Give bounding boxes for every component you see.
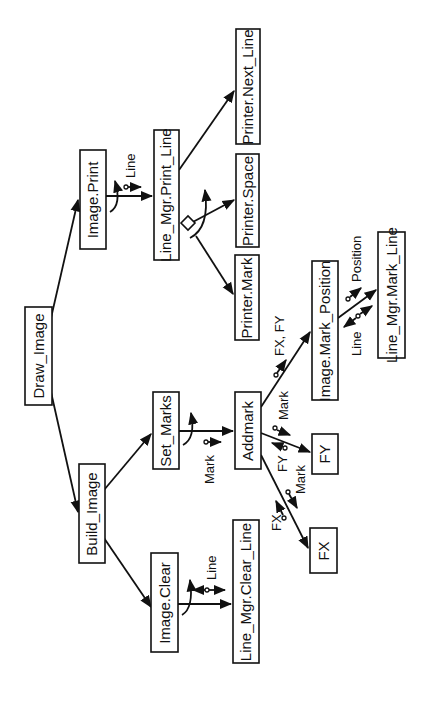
couple-arrow: [289, 494, 297, 508]
data-couple-icon: [286, 490, 290, 494]
module-printer-next-line: Printer.Next_Line: [236, 29, 260, 145]
module-line-mgr-print-line: Line_Mgr.Print_Line: [154, 128, 179, 261]
flow-label-line: Line: [204, 555, 219, 580]
flow-label-position: Position: [349, 236, 364, 282]
flow-label-mark: Mark: [293, 465, 308, 494]
module-draw-image: Draw_Image: [25, 307, 52, 405]
module-label: Image.Print: [84, 161, 101, 239]
edge-draw-to-build: [51, 392, 78, 512]
edge-printline-to-nextline: [179, 91, 234, 170]
edge-draw-to-print: [51, 200, 78, 318]
data-couple-icon: [124, 185, 128, 189]
edge-printline-to-space: [191, 200, 234, 223]
module-line-mgr-mark-line: Line_Mgr.Mark_Line: [378, 227, 405, 363]
module-label: Set_Marks: [157, 395, 174, 467]
flow-label-line: Line: [123, 153, 138, 178]
flow-label-mark: Mark: [276, 391, 291, 420]
data-couple-icon: [205, 588, 209, 592]
edge-printline-to-mark: [196, 236, 233, 294]
module-fy: FY: [312, 434, 338, 474]
module-build-image: Build_Image: [79, 464, 105, 563]
flow-label-fx: FX: [269, 514, 284, 531]
flow-label-fx-fy: FX, FY: [272, 315, 287, 356]
module-addmark: Addmark: [235, 392, 261, 469]
couple-arrow: [272, 443, 283, 447]
module-label: Printer.Mark: [238, 257, 255, 338]
loop-icon: [182, 580, 191, 615]
edge-build-to-clear: [104, 538, 151, 607]
data-couple-icon: [204, 440, 208, 444]
module-label: Image.Clear: [156, 562, 173, 644]
loop-icon: [183, 413, 192, 445]
module-image-mark-position: Image.Mark_Position: [312, 261, 338, 402]
module-label: Addmark: [239, 400, 256, 461]
data-couple-icon: [274, 373, 278, 377]
module-set-marks: Set_Marks: [153, 392, 179, 469]
couple-arrow: [350, 288, 361, 297]
module-label: Printer.Next_Line: [239, 29, 256, 144]
module-image-print: Image.Print: [80, 150, 106, 249]
module-printer-mark: Printer.Mark: [235, 255, 259, 340]
flow-label-line: Line: [349, 331, 364, 356]
module-fx: FX: [310, 528, 337, 573]
couple-arrow: [277, 430, 290, 435]
module-label: Line_Mgr.Clear_Line: [237, 523, 254, 661]
module-label: Image.Mark_Position: [316, 261, 333, 402]
module-label: FX: [315, 541, 332, 560]
loop-icon: [190, 190, 206, 238]
module-label: Line_Mgr.Mark_Line: [383, 227, 400, 363]
module-line-mgr-clear-line: Line_Mgr.Clear_Line: [233, 520, 259, 663]
module-label: Line_Mgr.Print_Line: [157, 128, 174, 261]
module-printer-space: Printer.Space: [236, 154, 259, 247]
couple-arrow: [344, 318, 356, 327]
module-label: Printer.Space: [239, 156, 256, 246]
flow-label-mark: Mark: [202, 455, 217, 484]
module-label: Draw_Image: [30, 313, 47, 398]
data-couple-icon: [356, 314, 360, 318]
edge-build-to-setmarks: [104, 434, 151, 490]
couple-arrow: [360, 306, 372, 314]
module-label: Build_Image: [83, 472, 100, 555]
data-couple-icon: [273, 426, 277, 430]
module-image-clear: Image.Clear: [151, 553, 178, 652]
data-couple-icon: [283, 446, 287, 450]
decision-diamond-icon: [181, 216, 195, 230]
module-label: FY: [316, 444, 333, 463]
data-couple-icon: [346, 297, 350, 301]
structure-chart: Line Mark FX, FY Mark FY Mark FX Positio…: [0, 0, 425, 701]
flow-label-fy: FY: [275, 455, 290, 472]
couple-arrow: [276, 501, 283, 515]
